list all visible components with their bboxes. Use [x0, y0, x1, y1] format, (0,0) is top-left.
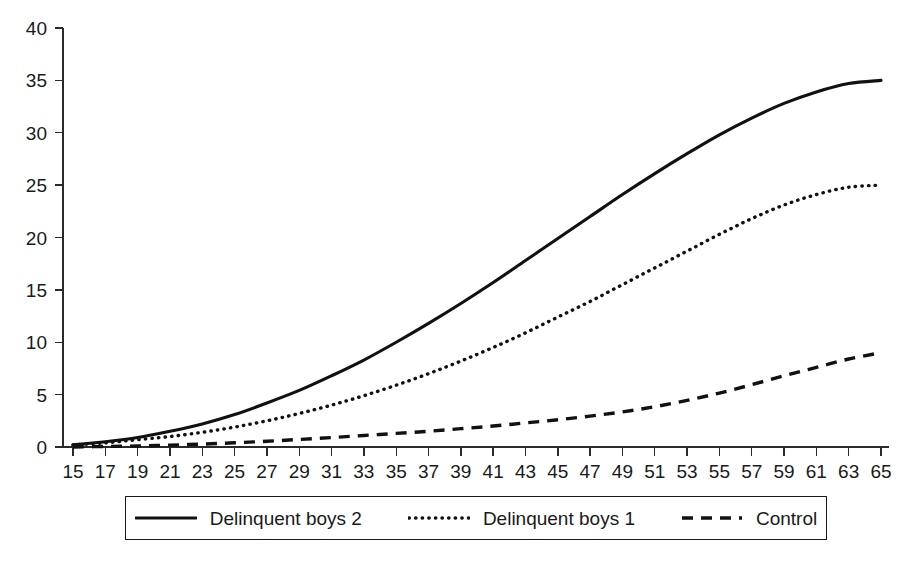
x-tick-label: 39: [450, 461, 471, 482]
x-tick-label: 51: [644, 461, 665, 482]
chart-figure: 0510152025303540 15171921232527293133353…: [0, 0, 911, 563]
series-line-solid: [73, 80, 881, 445]
x-tick-label: 53: [677, 461, 698, 482]
legend-item: Delinquent boys 2: [135, 509, 362, 528]
x-tick-label: 43: [515, 461, 536, 482]
x-tick-label: 29: [289, 461, 310, 482]
y-tick-label: 30: [26, 123, 47, 144]
legend-label: Delinquent boys 2: [210, 509, 362, 528]
series-line-dashed: [73, 353, 881, 447]
legend-swatch-dashed-icon: [681, 511, 743, 525]
chart-plot-area: 0510152025303540 15171921232527293133353…: [0, 0, 911, 563]
x-tick-label: 45: [547, 461, 568, 482]
x-tick-label: 25: [224, 461, 245, 482]
x-tick-label: 37: [418, 461, 439, 482]
x-tick-label: 59: [773, 461, 794, 482]
x-tick-label: 63: [838, 461, 859, 482]
y-tick-label: 35: [26, 70, 47, 91]
x-tick-label: 65: [870, 461, 891, 482]
x-tick-label: 33: [353, 461, 374, 482]
x-tick-label: 23: [192, 461, 213, 482]
x-tick-label: 55: [709, 461, 730, 482]
x-tick-label: 21: [159, 461, 180, 482]
legend-swatch-solid-icon: [135, 511, 197, 525]
legend-swatch-dotted-icon: [408, 511, 470, 525]
x-tick-label: 15: [62, 461, 83, 482]
y-tick-label: 5: [36, 385, 47, 406]
x-axis-ticks: 1517192123252729313335373941434547495153…: [62, 447, 891, 482]
y-axis-ticks: 0510152025303540: [26, 18, 63, 458]
series-line-dotted: [73, 185, 881, 445]
chart-series-group: [73, 80, 881, 447]
x-tick-label: 35: [386, 461, 407, 482]
x-tick-label: 17: [95, 461, 116, 482]
x-tick-label: 19: [127, 461, 148, 482]
x-tick-label: 27: [256, 461, 277, 482]
x-tick-label: 31: [321, 461, 342, 482]
legend-item: Control: [681, 509, 817, 528]
legend-label: Control: [756, 509, 817, 528]
y-tick-label: 40: [26, 18, 47, 39]
x-tick-label: 61: [806, 461, 827, 482]
legend-item: Delinquent boys 1: [408, 509, 635, 528]
x-tick-label: 57: [741, 461, 762, 482]
x-tick-label: 47: [580, 461, 601, 482]
y-tick-label: 10: [26, 332, 47, 353]
y-tick-label: 0: [36, 437, 47, 458]
x-tick-label: 41: [483, 461, 504, 482]
chart-legend: Delinquent boys 2Delinquent boys 1Contro…: [125, 496, 827, 540]
chart-axes: [63, 28, 889, 447]
y-tick-label: 20: [26, 228, 47, 249]
legend-label: Delinquent boys 1: [483, 509, 635, 528]
y-tick-label: 15: [26, 280, 47, 301]
y-tick-label: 25: [26, 175, 47, 196]
x-tick-label: 49: [612, 461, 633, 482]
